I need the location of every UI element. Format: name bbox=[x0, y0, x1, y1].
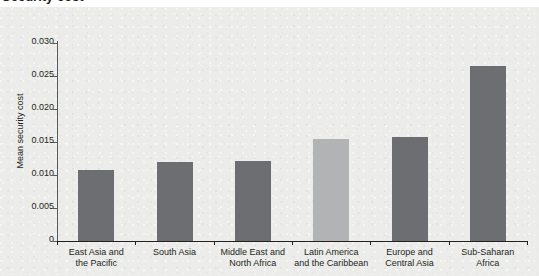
bar bbox=[313, 139, 349, 241]
bar-rect bbox=[235, 161, 271, 241]
bar-rect bbox=[157, 162, 193, 241]
bar bbox=[470, 66, 506, 241]
y-tick-label: 0.025 bbox=[31, 69, 54, 79]
y-tick-label: 0.010 bbox=[31, 168, 54, 178]
bar bbox=[157, 162, 193, 241]
x-tick-label: Latin America and the Caribbean bbox=[292, 247, 370, 269]
y-tick-label: 0 bbox=[49, 234, 54, 244]
x-tick-mark bbox=[527, 241, 528, 245]
security-cost-bar-chart: Security cost 00.0050.0100.0150.0200.025… bbox=[0, 0, 539, 276]
y-tick-label: 0.015 bbox=[31, 135, 54, 145]
bar-rect bbox=[470, 66, 506, 241]
bar-series bbox=[57, 0, 527, 276]
x-tick-label: Europe and Central Asia bbox=[370, 247, 448, 269]
y-tick-label: 0.005 bbox=[31, 201, 54, 211]
x-tick-label: East Asia and the Pacific bbox=[57, 247, 135, 269]
bar-rect bbox=[392, 137, 428, 241]
bar bbox=[235, 161, 271, 241]
y-tick-label: 0.020 bbox=[31, 102, 54, 112]
y-tick-label: 0.030 bbox=[31, 36, 54, 46]
bar-rect bbox=[313, 139, 349, 241]
bar-rect bbox=[78, 170, 114, 241]
bar bbox=[78, 170, 114, 241]
y-axis-title: Mean security cost bbox=[15, 71, 25, 191]
x-tick-label: Middle East and North Africa bbox=[214, 247, 292, 269]
bar bbox=[392, 137, 428, 241]
x-tick-label: South Asia bbox=[135, 247, 213, 258]
x-tick-label: Sub-Saharan Africa bbox=[449, 247, 527, 269]
